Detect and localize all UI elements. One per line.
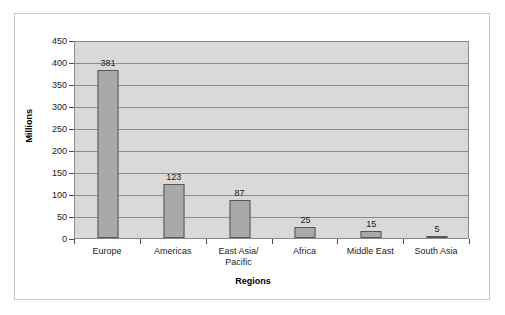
- bar-value-label: 87: [235, 188, 245, 198]
- x-tick-mark: [74, 239, 75, 244]
- bar[interactable]: [97, 70, 118, 238]
- bar-value-label: 15: [366, 219, 376, 229]
- bar-value-label: 25: [300, 215, 310, 225]
- x-tick-label: Americas: [140, 246, 206, 257]
- bar-slot: 15: [338, 42, 404, 238]
- x-tick-mark: [206, 239, 207, 244]
- bar-slot: 87: [207, 42, 273, 238]
- bar-slot: 5: [404, 42, 470, 238]
- x-tick-mark: [337, 239, 338, 244]
- y-tick-label: 350: [52, 80, 67, 90]
- x-axis-title: Regions: [15, 276, 491, 286]
- bar[interactable]: [163, 184, 184, 238]
- y-tick-label: 450: [52, 36, 67, 46]
- x-tick-mark: [469, 239, 470, 244]
- y-tick-label: 300: [52, 102, 67, 112]
- bar-value-label: 381: [100, 58, 115, 68]
- bar-slot: 381: [75, 42, 141, 238]
- y-tick-label: 400: [52, 58, 67, 68]
- y-tick-label: 200: [52, 146, 67, 156]
- bar-slot: 25: [273, 42, 339, 238]
- bar-value-label: 5: [435, 224, 440, 234]
- x-tick-label: Europe: [74, 246, 140, 257]
- x-tick-label: Middle East: [337, 246, 403, 257]
- x-tick-mark: [140, 239, 141, 244]
- y-tick-label: 50: [57, 212, 67, 222]
- x-tick-label: East Asia/ Pacific: [206, 246, 272, 268]
- bar-slot: 123: [141, 42, 207, 238]
- chart-figure-frame: Millions 450400350300250200150100500 381…: [14, 13, 490, 300]
- bar-chart: Millions 450400350300250200150100500 381…: [15, 14, 491, 301]
- y-tick-label: 150: [52, 168, 67, 178]
- plot-region: 3811238725155: [74, 41, 469, 239]
- y-tick-label: 0: [62, 234, 67, 244]
- y-tick-label: 250: [52, 124, 67, 134]
- bar-value-label: 123: [166, 172, 181, 182]
- bar[interactable]: [229, 200, 250, 238]
- y-axis-title: Millions: [24, 109, 38, 143]
- x-tick-mark: [403, 239, 404, 244]
- x-tick-mark: [272, 239, 273, 244]
- y-tick-label: 100: [52, 190, 67, 200]
- bar[interactable]: [427, 236, 448, 238]
- bar[interactable]: [361, 231, 382, 238]
- x-tick-label: Africa: [272, 246, 338, 257]
- x-tick-label: South Asia: [403, 246, 469, 257]
- bar[interactable]: [295, 227, 316, 238]
